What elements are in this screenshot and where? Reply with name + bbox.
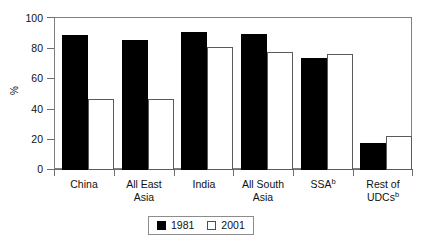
- y-tick-label-100: 100: [15, 13, 43, 23]
- bar-2001-china: [88, 99, 114, 170]
- x-tick-mark-1: [114, 170, 115, 176]
- x-category-label-text: SSA: [310, 178, 331, 190]
- x-tick-mark-0: [54, 170, 55, 176]
- y-tick-mark-60: [47, 78, 54, 79]
- footnote-marker-b: b: [395, 189, 399, 198]
- x-category-label-line1: India: [174, 178, 234, 191]
- x-tick-mark-4: [293, 170, 294, 176]
- x-tick-mark-5: [353, 170, 354, 176]
- x-category-label-india: India: [174, 178, 234, 191]
- y-tick-mark-20: [47, 139, 54, 140]
- bar-1981-china: [62, 35, 88, 170]
- x-category-label-line2: UDCsb: [353, 191, 413, 204]
- x-category-label-line1: China: [54, 178, 114, 191]
- y-axis-label: %: [9, 81, 20, 101]
- y-tick-label-80: 80: [15, 43, 43, 53]
- x-category-label-line1: All South: [231, 178, 295, 191]
- x-category-label-line1: All East: [112, 178, 176, 191]
- legend-item-1981: 1981: [157, 219, 194, 231]
- bar-2001-rest-of-udcs: [386, 136, 412, 170]
- bar-2001-india: [207, 47, 233, 170]
- x-category-label-all-south-asia: All South Asia: [231, 178, 295, 203]
- y-axis-line: [54, 17, 55, 170]
- x-category-label-text: UDCs: [367, 191, 395, 203]
- y-tick-mark-100: [47, 17, 54, 18]
- y-tick-label-20: 20: [15, 134, 43, 144]
- bar-1981-rest-of-udcs: [360, 143, 386, 170]
- x-category-label-all-east-asia: All East Asia: [112, 178, 176, 203]
- y-tick-mark-0: [47, 169, 54, 170]
- bar-1981-all-south-asia: [241, 34, 267, 170]
- chart-legend: 1981 2001: [148, 216, 254, 235]
- y-tick-label-0: 0: [15, 164, 43, 174]
- y-tick-mark-40: [47, 109, 54, 110]
- x-category-label-line1: Rest of: [353, 178, 413, 191]
- legend-label-1981: 1981: [171, 219, 194, 231]
- x-category-label-line2: Asia: [112, 191, 176, 204]
- x-category-label-china: China: [54, 178, 114, 191]
- bar-1981-india: [181, 32, 207, 170]
- bar-1981-ssa: [301, 58, 327, 170]
- x-category-label-rest-of-udcs: Rest of UDCsb: [353, 178, 413, 203]
- legend-item-2001: 2001: [207, 219, 244, 231]
- y-tick-mark-80: [47, 48, 54, 49]
- x-category-label-line2: Asia: [231, 191, 295, 204]
- x-category-label-ssa: SSAb: [293, 178, 353, 191]
- y-tick-label-40: 40: [15, 104, 43, 114]
- x-tick-mark-3: [233, 170, 234, 176]
- legend-label-2001: 2001: [221, 219, 244, 231]
- footnote-marker-b: b: [331, 177, 335, 186]
- x-tick-mark-2: [174, 170, 175, 176]
- hollow-square-icon: [207, 221, 216, 230]
- filled-square-icon: [157, 221, 166, 230]
- bar-2001-all-south-asia: [267, 52, 293, 170]
- bar-chart: % 100 80 60 40 20 0 China All East Asia: [0, 0, 427, 247]
- bar-2001-all-east-asia: [148, 99, 174, 170]
- x-category-label-line1: SSAb: [293, 178, 353, 191]
- bar-1981-all-east-asia: [122, 40, 148, 170]
- x-tick-mark-6: [412, 170, 413, 176]
- bar-2001-ssa: [327, 54, 353, 171]
- y-tick-label-60: 60: [15, 73, 43, 83]
